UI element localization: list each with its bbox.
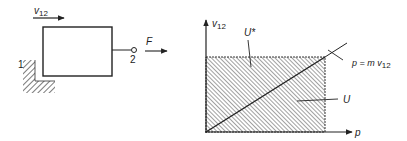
mass-element-diagram: v12 2 F 1: [18, 5, 167, 93]
velocity-label: v12: [34, 5, 48, 18]
diagram-canvas: v12 2 F 1 v12 p U* p = m v12: [0, 0, 407, 141]
node-2-label: 2: [130, 54, 136, 65]
energy-label: U: [343, 94, 351, 105]
force-label: F: [146, 36, 153, 47]
x-axis-label: p: [354, 127, 361, 138]
line-equation-label: p = m v12: [351, 58, 391, 70]
y-axis-label: v12: [212, 18, 226, 31]
node-2-terminal: [132, 48, 137, 53]
energy-coenergy-plot: v12 p U* p = m v12 U: [205, 18, 391, 138]
line-label-leader: [328, 50, 343, 60]
mass-box: [43, 27, 112, 76]
coenergy-label: U*: [244, 27, 256, 38]
ground-edge: [35, 60, 55, 81]
